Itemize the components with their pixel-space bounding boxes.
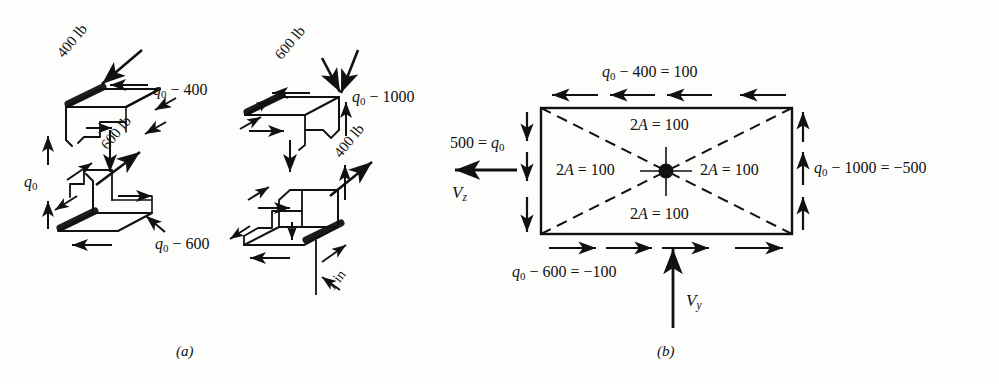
label-shear-vz: Vz bbox=[452, 184, 467, 204]
label-shear-vy: Vy bbox=[686, 292, 702, 312]
label-left-wall-flow: 500 = q0 bbox=[450, 135, 504, 153]
label-right-wall-flow: q0 − 1000 = −500 bbox=[814, 160, 927, 178]
sector-label-bottom: 2A = 100 bbox=[630, 206, 689, 222]
label-q0-minus-1000: q0 − 1000 bbox=[352, 89, 414, 107]
label-q0-left: q0 bbox=[24, 174, 37, 192]
label-q0-minus-600: q0 − 600 bbox=[155, 236, 209, 254]
sector-label-left: 2A = 100 bbox=[556, 162, 615, 178]
panel-b-centroid-marker bbox=[640, 147, 692, 196]
label-top-wall-flow: q0 − 400 = 100 bbox=[602, 64, 697, 82]
sector-label-top: 2A = 100 bbox=[630, 117, 689, 133]
figure-artwork bbox=[0, 0, 999, 384]
caption-panel-a: (a) bbox=[176, 344, 194, 359]
sector-label-right: 2A = 100 bbox=[700, 162, 759, 178]
figure-container: 400 lb q0 − 400 600 lb q0 q0 − 600 600 l… bbox=[0, 0, 999, 384]
panel-a-right-cell bbox=[245, 95, 339, 150]
label-bottom-wall-flow: q0 − 600 = −100 bbox=[512, 264, 617, 282]
label-q0-minus-400: q0 − 400 bbox=[153, 82, 207, 100]
caption-panel-b: (b) bbox=[657, 344, 675, 359]
